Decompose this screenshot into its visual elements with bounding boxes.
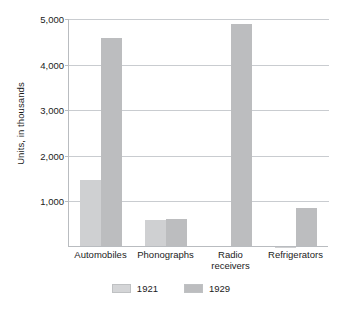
bar-1921[interactable]	[80, 180, 101, 247]
x-axis-line	[68, 246, 328, 247]
y-axis-tick-label: 5,000	[40, 14, 64, 25]
y-axis-tick-label: 4,000	[40, 59, 64, 70]
legend-label: 1929	[209, 283, 230, 294]
bar-1929[interactable]	[101, 38, 122, 247]
bar-group	[263, 19, 328, 247]
bar-group	[198, 19, 263, 247]
x-axis-label: Phonographs	[133, 250, 198, 261]
legend-label: 1921	[137, 283, 158, 294]
legend-swatch-1929	[184, 284, 203, 293]
chart-container: Units, in thousands 1,0002,0003,0004,000…	[0, 0, 342, 310]
legend-swatch-1921	[112, 284, 131, 293]
y-axis-tick-label: 3,000	[40, 105, 64, 116]
bar-1929[interactable]	[296, 208, 317, 247]
bar-1929[interactable]	[166, 219, 187, 247]
x-axis-label: Radio receivers	[198, 250, 263, 271]
y-axis-tick-label: 2,000	[40, 150, 64, 161]
x-axis-labels: AutomobilesPhonographsRadio receiversRef…	[68, 250, 328, 278]
y-axis-title: Units, in thousands	[10, 0, 30, 247]
x-axis-label: Automobiles	[68, 250, 133, 261]
bar-group	[133, 19, 198, 247]
legend-item-1929[interactable]: 1929	[184, 283, 230, 294]
legend-item-1921[interactable]: 1921	[112, 283, 158, 294]
y-axis-title-text: Units, in thousands	[15, 82, 26, 165]
x-axis-label: Refrigerators	[263, 250, 328, 261]
bar-1929[interactable]	[231, 24, 252, 247]
y-axis-tick-label: 1,000	[40, 196, 64, 207]
bar-group	[68, 19, 133, 247]
bar-1921[interactable]	[145, 220, 166, 247]
chart-legend: 19211929	[0, 283, 342, 294]
bars-layer	[68, 19, 328, 247]
